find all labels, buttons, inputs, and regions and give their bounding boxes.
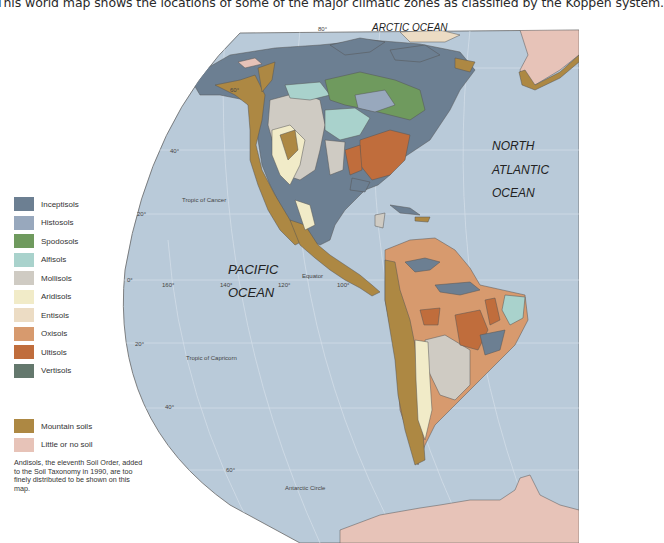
other-legend: Mountain soils Little or no soil xyxy=(14,417,93,454)
lat-label-60n: 60° xyxy=(230,87,239,93)
legend-item-ultisols: Ultisols xyxy=(14,343,79,362)
lat-label-40s: 40° xyxy=(165,404,174,410)
lat-label-40n: 40° xyxy=(170,148,179,154)
tropic-of-capricorn-label: Tropic of Capricorn xyxy=(186,355,237,361)
lat-label-60s: 60° xyxy=(226,467,235,473)
legend-item-spodosols: Spodosols xyxy=(14,232,79,251)
soil-legend: Inceptisols Histosols Spodosols Alfisols… xyxy=(14,195,79,380)
lat-label-20s: 20° xyxy=(135,341,144,347)
legend-item-oxisols: Oxisols xyxy=(14,325,79,344)
lon-label-120: 120° xyxy=(278,282,290,288)
swatch-inceptisols xyxy=(14,197,34,211)
legend-item-histosols: Histosols xyxy=(14,214,79,233)
swatch-spodosols xyxy=(14,234,34,248)
north-atlantic-label-2: ATLANTIC xyxy=(492,163,549,177)
legend-item-mollisols: Mollisols xyxy=(14,269,79,288)
swatch-ultisols xyxy=(14,345,34,359)
lat-label-0: 0° xyxy=(127,277,133,283)
swatch-alfisols xyxy=(14,253,34,267)
swatch-entisols xyxy=(14,308,34,322)
map-caption: This world map shows the locations of so… xyxy=(0,0,596,10)
swatch-oxisols xyxy=(14,327,34,341)
lat-label-80n: 80° xyxy=(318,26,327,32)
tropic-of-cancer-label: Tropic of Cancer xyxy=(182,197,226,203)
swatch-aridisols xyxy=(14,290,34,304)
swatch-little-or-no-soil xyxy=(14,438,34,452)
legend-item-vertisols: Vertisols xyxy=(14,362,79,381)
legend-item-alfisols: Alfisols xyxy=(14,251,79,270)
antarctic-circle-label: Antarctic Circle xyxy=(285,485,325,491)
swatch-mollisols xyxy=(14,271,34,285)
legend-item-inceptisols: Inceptisols xyxy=(14,195,79,214)
legend-item-mountain-soils: Mountain soils xyxy=(14,417,93,436)
lon-label-140: 140° xyxy=(220,282,232,288)
pacific-label-2: OCEAN xyxy=(228,285,274,300)
swatch-vertisols xyxy=(14,364,34,378)
lon-label-160: 160° xyxy=(162,282,174,288)
legend-item-entisols: Entisols xyxy=(14,306,79,325)
swatch-histosols xyxy=(14,216,34,230)
legend-item-aridisols: Aridisols xyxy=(14,288,79,307)
lat-label-20n: 20° xyxy=(137,211,146,217)
lon-label-100: 100° xyxy=(337,282,349,288)
arctic-ocean-label: ARCTIC OCEAN xyxy=(372,22,448,33)
swatch-mountain-soils xyxy=(14,419,34,433)
north-atlantic-label-1: NORTH xyxy=(492,139,534,153)
pacific-label-1: PACIFIC xyxy=(228,262,278,277)
legend-item-little-or-no-soil: Little or no soil xyxy=(14,436,93,455)
andisols-note: Andisols, the eleventh Soil Order, added… xyxy=(14,459,144,493)
north-atlantic-label-3: OCEAN xyxy=(492,186,535,200)
equator-label: Equator xyxy=(302,273,323,279)
